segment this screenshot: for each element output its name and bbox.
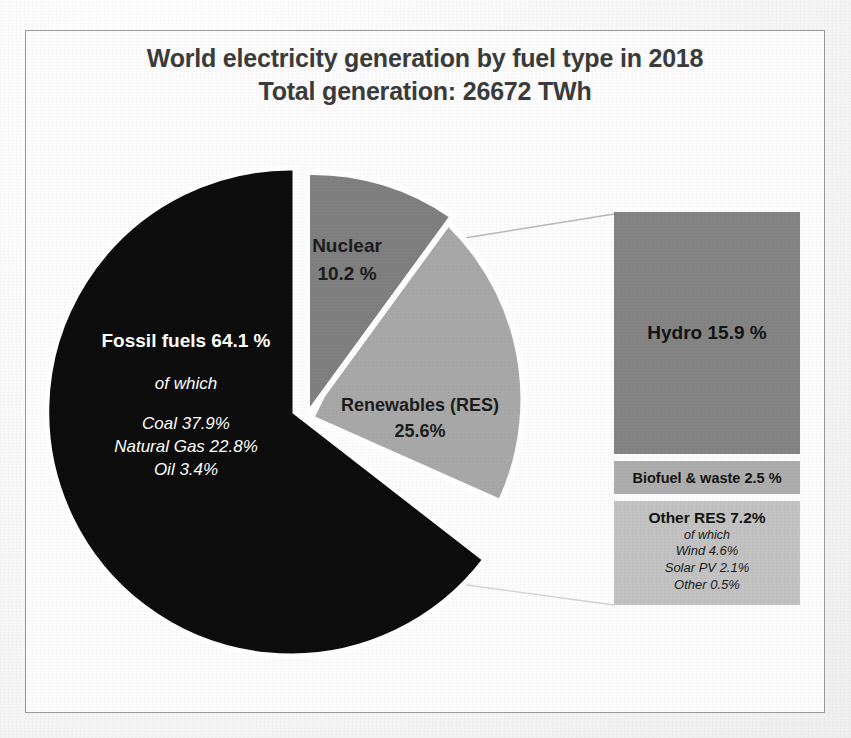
leader-line-bottom	[452, 583, 614, 605]
breakout-panel-hydro: Hydro 15.9 %	[614, 212, 800, 454]
biofuel-waste-headline: Biofuel & waste 2.5 %	[632, 470, 781, 486]
other-res-of-which: of which	[614, 528, 800, 542]
figure-canvas: World electricity generation by fuel typ…	[0, 0, 851, 738]
other-res-solar-pv: Solar PV 2.1%	[614, 559, 800, 576]
other-res-headline: Other RES 7.2%	[614, 509, 800, 527]
breakout-panel-other-res: Other RES 7.2% of which Wind 4.6% Solar …	[614, 501, 800, 605]
hydro-headline: Hydro 15.9 %	[647, 322, 766, 344]
leader-line-top	[452, 214, 614, 240]
other-res-wind: Wind 4.6%	[614, 542, 800, 559]
breakout-panel-biofuel-waste: Biofuel & waste 2.5 %	[614, 461, 800, 494]
other-res-other: Other 0.5%	[614, 576, 800, 593]
